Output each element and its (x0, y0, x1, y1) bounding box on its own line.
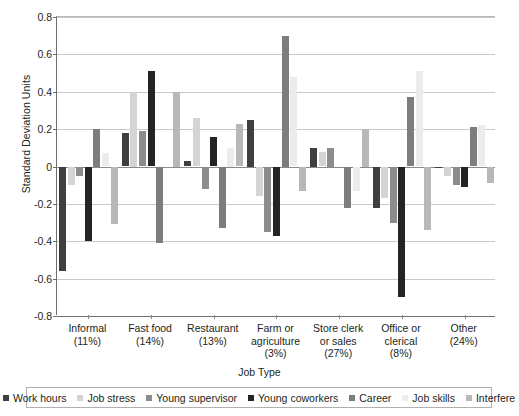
bar (59, 167, 66, 272)
x-axis-label: Informal(11%) (56, 322, 119, 347)
bar (264, 167, 271, 232)
x-tick-mark (276, 315, 277, 319)
legend-item[interactable]: Job stress (77, 392, 135, 404)
bar-group (120, 17, 183, 315)
legend-label: Job skills (412, 392, 455, 404)
legend-label: Career (359, 392, 391, 404)
bar (390, 167, 397, 223)
y-tick-mark (53, 316, 57, 317)
legend-item[interactable]: Career (349, 392, 391, 404)
x-axis-label: Office orclerical(8%) (370, 322, 433, 360)
bar (148, 71, 155, 166)
legend-item[interactable]: Young coworkers (248, 392, 338, 404)
legend-label: Young supervisor (156, 392, 237, 404)
bar-chart: Standard Deviation Units 0.80.60.40.20-0… (0, 0, 519, 416)
bar (424, 167, 431, 231)
y-tick-label: 0.2 (37, 123, 52, 135)
y-axis-title: Standard Deviation Units (20, 24, 32, 244)
y-tick-label: -0.4 (34, 235, 52, 247)
x-axis-label-line: (13%) (181, 335, 244, 348)
bar-group (308, 17, 371, 315)
x-axis-label: Store clerkor sales(27%) (307, 322, 370, 360)
bar (68, 167, 75, 186)
x-axis-label-line: Informal (56, 322, 119, 335)
bar (290, 77, 297, 167)
x-tick-mark (214, 315, 215, 319)
legend-swatch-icon (402, 395, 408, 401)
x-axis-label-line: Restaurant (181, 322, 244, 335)
x-axis-label-line: (3%) (244, 347, 307, 360)
x-axis-label-line: (14%) (119, 335, 182, 348)
bar (236, 124, 243, 167)
x-axis-label-line: or sales (307, 335, 370, 348)
x-tick-mark (465, 315, 466, 319)
bar (256, 167, 263, 197)
legend-label: Work hours (13, 392, 67, 404)
bar (416, 71, 423, 166)
legend-item[interactable]: Interfere (466, 392, 515, 404)
bar (102, 153, 109, 166)
bar (478, 125, 485, 166)
bar-group (57, 17, 120, 315)
x-axis-label-line: agriculture (244, 335, 307, 348)
legend-swatch-icon (248, 395, 254, 401)
x-axis-label: Other(24%) (432, 322, 495, 347)
bar (76, 167, 83, 176)
y-tick-label: -0.2 (34, 198, 52, 210)
y-tick-label: 0.4 (37, 86, 52, 98)
bar (407, 97, 414, 166)
legend-label: Interfere (476, 392, 515, 404)
bar (184, 161, 191, 167)
chart-legend: Work hoursJob stressYoung supervisorYoun… (26, 387, 492, 408)
x-axis-label-line: Office or (370, 322, 433, 335)
y-tick-label: 0 (46, 161, 52, 173)
y-tick-label: -0.6 (34, 273, 52, 285)
y-tick-label: 0.8 (37, 11, 52, 23)
y-tick-label: 0.6 (37, 48, 52, 60)
bar (156, 167, 163, 244)
bar (219, 167, 226, 229)
bar (444, 167, 451, 176)
legend-item[interactable]: Young supervisor (146, 392, 237, 404)
bar (202, 167, 209, 189)
legend-label: Job stress (87, 392, 135, 404)
x-axis-label-line: (8%) (370, 347, 433, 360)
y-tick-label: -0.8 (34, 310, 52, 322)
x-axis-label-line: Store clerk (307, 322, 370, 335)
bar (210, 137, 217, 167)
bar-group (371, 17, 434, 315)
bar (173, 92, 180, 167)
legend-swatch-icon (77, 395, 83, 401)
x-axis-label-line: Fast food (119, 322, 182, 335)
legend-swatch-icon (3, 395, 9, 401)
bar (227, 148, 234, 167)
bar (362, 129, 369, 166)
legend-item[interactable]: Work hours (3, 392, 67, 404)
bar (398, 167, 405, 298)
x-axis-label-line: clerical (370, 335, 433, 348)
bar (373, 167, 380, 208)
x-axis-label-line: (11%) (56, 335, 119, 348)
bar (453, 167, 460, 186)
bar (470, 127, 477, 166)
legend-item[interactable]: Job skills (402, 392, 455, 404)
x-tick-mark (88, 315, 89, 319)
bar (381, 167, 388, 199)
bar-group (182, 17, 245, 315)
x-axis-label: Farm oragriculture(3%) (244, 322, 307, 360)
x-axis-label-line: Other (432, 322, 495, 335)
bar (139, 131, 146, 167)
bar (461, 167, 468, 188)
bar (122, 133, 129, 167)
bar (435, 167, 442, 169)
bar (93, 129, 100, 166)
x-tick-mark (151, 315, 152, 319)
bar (247, 120, 254, 167)
bar-group (433, 17, 496, 315)
bar-group (245, 17, 308, 315)
bar (487, 167, 494, 184)
x-axis-label-line: (27%) (307, 347, 370, 360)
bar (282, 36, 289, 167)
x-tick-mark (339, 315, 340, 319)
x-axis-label: Restaurant(13%) (181, 322, 244, 347)
